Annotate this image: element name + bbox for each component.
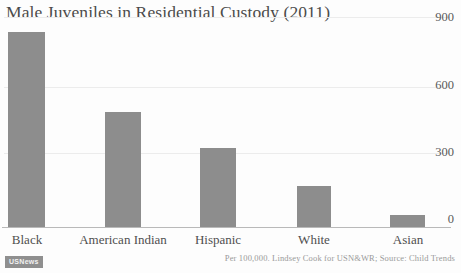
source-note: Per 100,000. Lindsey Cook for USN&WR; So…	[225, 253, 455, 263]
bar-chart-figure: Male Juveniles in Residential Custody (2…	[0, 0, 461, 273]
y-tick-600: 600	[435, 78, 454, 93]
x-tick-american-indian: American Indian	[79, 232, 167, 248]
x-tick-white: White	[298, 232, 330, 248]
bars-layer	[0, 0, 461, 227]
bar-black[interactable]	[8, 32, 45, 227]
usnews-logo: USNews	[5, 256, 43, 268]
x-tick-black: Black	[12, 232, 42, 248]
bar-american-indian[interactable]	[105, 112, 141, 227]
x-tick-hispanic: Hispanic	[195, 232, 241, 248]
x-tick-asian: Asian	[393, 232, 423, 248]
bar-asian[interactable]	[390, 215, 425, 227]
bar-white[interactable]	[297, 186, 331, 227]
bar-hispanic[interactable]	[200, 148, 236, 227]
y-tick-300: 300	[435, 145, 454, 160]
y-tick-900: 900	[435, 10, 454, 25]
y-tick-0: 0	[448, 212, 454, 227]
x-axis-line	[2, 227, 451, 228]
